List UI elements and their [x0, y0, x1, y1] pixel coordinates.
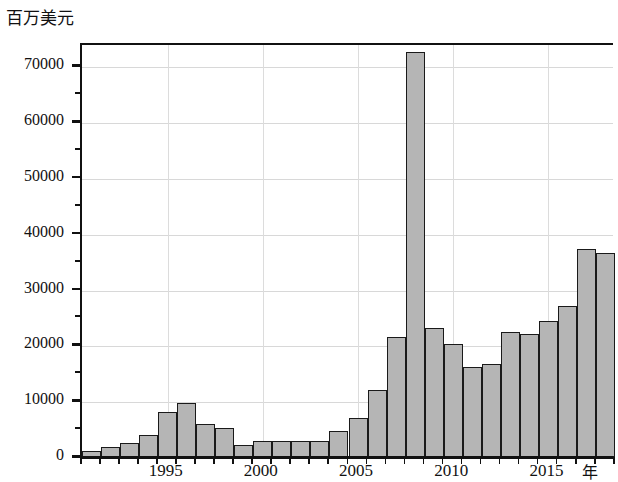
- y-tick-minor: [75, 260, 82, 262]
- x-tick: [518, 457, 520, 464]
- bar-2000: [253, 441, 272, 457]
- y-tick-major: [72, 64, 82, 67]
- gridline-vertical: [168, 45, 169, 457]
- x-tick: [404, 457, 406, 464]
- bar-2008: [406, 52, 425, 457]
- x-tick: [118, 457, 120, 464]
- plot-inner: [82, 45, 613, 457]
- bar-2005: [349, 418, 368, 457]
- y-tick-major: [72, 176, 82, 179]
- y-tick-label: 20000: [0, 334, 64, 352]
- bar-2006: [368, 390, 387, 457]
- bar-2017: [577, 249, 596, 457]
- y-tick-minor: [75, 315, 82, 317]
- y-tick-label: 30000: [0, 279, 64, 297]
- gridline-horizontal: [82, 67, 613, 68]
- x-tick: [480, 457, 482, 464]
- y-tick-label: 10000: [0, 390, 64, 408]
- x-tick: [385, 457, 387, 464]
- x-tick-label: 2005: [339, 461, 373, 481]
- gridline-vertical: [358, 45, 359, 457]
- x-tick-label: 2015: [529, 461, 563, 481]
- bar-1998: [215, 428, 234, 457]
- bar-1995: [158, 412, 177, 457]
- y-tick-minor: [75, 204, 82, 206]
- bar-2014: [520, 334, 539, 457]
- y-tick-minor: [75, 371, 82, 373]
- x-tick: [613, 457, 615, 464]
- gridline-horizontal: [82, 291, 613, 292]
- y-tick-minor: [75, 148, 82, 150]
- y-tick-label: 50000: [0, 167, 64, 185]
- x-tick: [423, 457, 425, 464]
- x-tick-label: 2000: [244, 461, 278, 481]
- y-axis-unit-label: 百万美元: [6, 4, 74, 29]
- y-tick-label: 40000: [0, 223, 64, 241]
- bar-1994: [139, 435, 158, 457]
- bar-1993: [120, 443, 139, 457]
- x-tick-label: 1995: [149, 461, 183, 481]
- bar-2004: [329, 431, 348, 457]
- x-tick: [499, 457, 501, 464]
- y-tick-minor: [75, 427, 82, 429]
- gridline-horizontal: [82, 123, 613, 124]
- y-tick-label: 60000: [0, 111, 64, 129]
- x-tick: [232, 457, 234, 464]
- x-tick-label: 2010: [434, 461, 468, 481]
- bar-2015: [539, 321, 558, 457]
- y-tick-label: 70000: [0, 55, 64, 73]
- y-tick-major: [72, 120, 82, 123]
- bar-2016: [558, 306, 577, 457]
- bar-2007: [387, 337, 406, 457]
- y-tick-label: 0: [0, 446, 64, 464]
- x-tick: [213, 457, 215, 464]
- bar-1996: [177, 403, 196, 457]
- x-tick: [99, 457, 101, 464]
- bar-2001: [272, 441, 291, 457]
- bar-2012: [482, 364, 501, 457]
- bar-2018: [596, 253, 615, 457]
- x-tick: [575, 457, 577, 464]
- bar-1997: [196, 424, 215, 457]
- x-tick: [194, 457, 196, 464]
- y-tick-major: [72, 288, 82, 291]
- bar-2011: [463, 367, 482, 457]
- bar-2013: [501, 332, 520, 457]
- plot-area: [80, 43, 613, 457]
- chart-root: 百万美元 01000020000300004000050000600007000…: [0, 0, 618, 482]
- y-tick-minor: [75, 92, 82, 94]
- bar-2002: [291, 441, 310, 457]
- x-axis-unit-label: 年: [582, 459, 598, 482]
- x-tick: [137, 457, 139, 464]
- x-tick: [327, 457, 329, 464]
- x-tick: [289, 457, 291, 464]
- x-tick: [308, 457, 310, 464]
- bar-2003: [310, 441, 329, 457]
- y-tick-major: [72, 232, 82, 235]
- y-tick-major: [72, 343, 82, 346]
- gridline-horizontal: [82, 235, 613, 236]
- gridline-vertical: [263, 45, 264, 457]
- gridline-horizontal: [82, 179, 613, 180]
- y-tick-major: [72, 399, 82, 402]
- bar-2009: [425, 328, 444, 457]
- x-tick: [80, 457, 82, 464]
- bar-2010: [444, 344, 463, 457]
